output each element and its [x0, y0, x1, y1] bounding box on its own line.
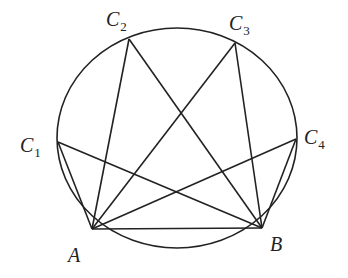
label-b: B: [270, 233, 282, 255]
label-c3: C3: [229, 12, 250, 38]
geometry-figure: ABC1C2C3C4: [0, 0, 348, 278]
label-a: A: [66, 244, 81, 266]
label-c1: C1: [20, 134, 41, 160]
point-labels: ABC1C2C3C4: [20, 8, 325, 266]
label-c4: C4: [304, 126, 325, 152]
segment-a-b: [92, 228, 262, 229]
segment-a-c3: [92, 43, 235, 229]
chords: [58, 39, 296, 229]
segment-a-c4: [92, 139, 296, 229]
circle-outline: [57, 28, 297, 248]
segment-a-c2: [92, 39, 129, 229]
circle: [57, 28, 297, 248]
segment-b-c3: [235, 43, 262, 228]
label-c2: C2: [106, 8, 127, 34]
